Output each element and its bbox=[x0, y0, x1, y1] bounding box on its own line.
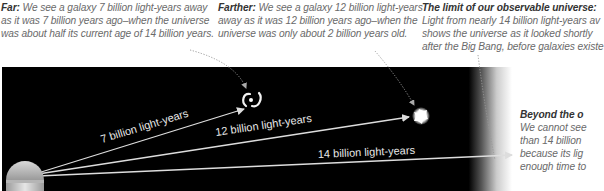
leader-line-far bbox=[190, 50, 246, 88]
label-7-billion: 7 billion light-years bbox=[99, 107, 190, 145]
arrow-14-billion bbox=[38, 155, 512, 176]
leader-line-limit bbox=[478, 55, 495, 160]
young-galaxy-icon bbox=[412, 107, 430, 125]
arrow-7-billion bbox=[38, 109, 244, 173]
label-14-billion: 14 billion light-years bbox=[318, 144, 416, 160]
spiral-galaxy-icon bbox=[243, 93, 260, 106]
telescope-dome-icon bbox=[6, 161, 44, 191]
leader-line-farther bbox=[375, 51, 414, 105]
